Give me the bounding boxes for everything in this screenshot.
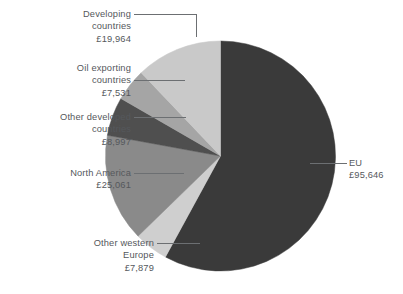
leader-line-north-america: [134, 173, 184, 174]
pie-chart: Developing countries £19,964 Oil exporti…: [0, 0, 403, 294]
slice-label-line: Europe: [94, 249, 154, 261]
slice-label-line: Other developed: [60, 111, 131, 123]
slice-value: £25,061: [70, 179, 131, 191]
slice-label-other-developed-countries: Other developed countries £8,997: [60, 111, 131, 148]
slice-label-north-america: North America £25,061: [70, 167, 131, 192]
slice-value: £95,646: [349, 169, 384, 181]
leader-line-oil-exporting-countries: [134, 80, 185, 81]
leader-line-other-western-europe: [157, 243, 200, 244]
leader-line-other-developed-countries: [134, 117, 186, 118]
slice-value: £7,879: [94, 262, 154, 274]
slice-label-line: countries: [83, 20, 131, 32]
leader-line-developing-countries-drop: [196, 14, 197, 37]
leader-line-eu: [310, 163, 347, 164]
slice-value: £19,964: [83, 33, 131, 45]
slice-label-line: countries: [77, 74, 131, 86]
slice-label-line: Other western: [94, 237, 154, 249]
slice-label-oil-exporting-countries: Oil exporting countries £7,531: [77, 62, 131, 99]
slice-label-line: Developing: [83, 8, 131, 20]
slice-label-eu: EU £95,646: [349, 157, 384, 182]
leader-line-developing-countries: [134, 14, 197, 15]
slice-value: £8,997: [60, 136, 131, 148]
slice-label-developing-countries: Developing countries £19,964: [83, 8, 131, 45]
slice-label-line: EU: [349, 157, 384, 169]
slice-label-other-western-europe: Other western Europe £7,879: [94, 237, 154, 274]
slice-value: £7,531: [77, 87, 131, 99]
slice-label-line: North America: [70, 167, 131, 179]
slice-label-line: countries: [60, 123, 131, 135]
top-crop-edge: [0, 0, 403, 4]
slice-label-line: Oil exporting: [77, 62, 131, 74]
